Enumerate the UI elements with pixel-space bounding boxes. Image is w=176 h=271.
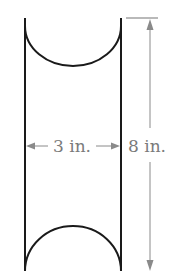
diagram-canvas: 3 in. 8 in. [0, 0, 176, 271]
bottom-semicircle [25, 226, 121, 271]
height-label: 8 in. [128, 136, 166, 156]
width-label: 3 in. [53, 136, 91, 156]
arrow-down-icon [147, 260, 154, 271]
top-semicircle [25, 26, 121, 66]
arrow-left-icon [26, 143, 35, 150]
arrow-right-icon [111, 143, 120, 150]
arrow-up-icon [147, 19, 154, 30]
